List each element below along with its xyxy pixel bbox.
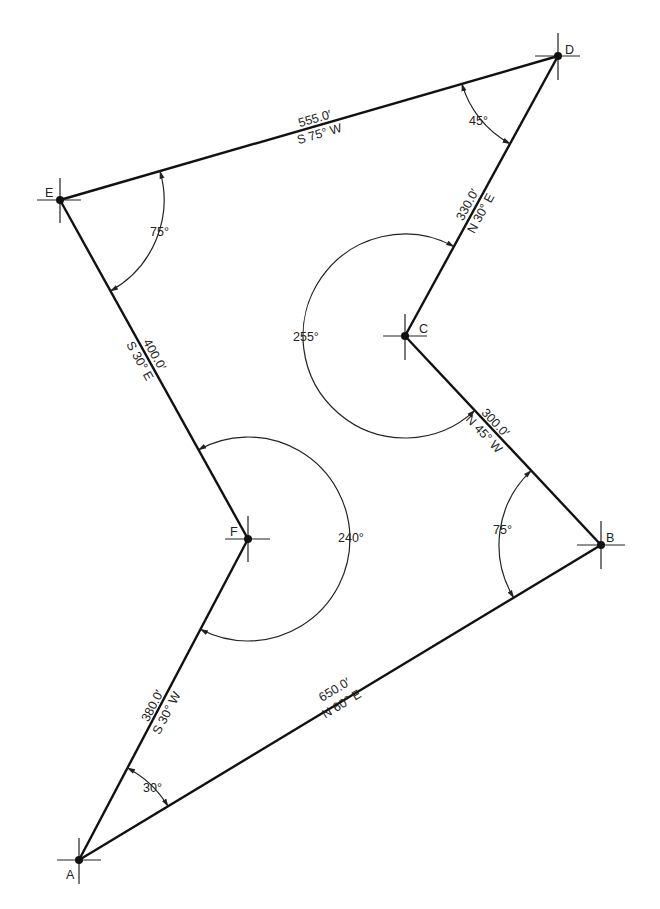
vertex-F [225,516,270,562]
vertex-E [37,178,81,223]
course-E-F [60,200,248,539]
angle-label-B: 75° [493,523,512,537]
vertex-markers [37,33,625,884]
vertex-label-A: A [66,868,75,882]
vertex-label-F: F [230,525,238,539]
angle-label-A: 30° [143,781,162,795]
vertex-label-D: D [565,43,574,57]
vertex-label-C: C [419,322,428,336]
traverse-edges [60,56,601,860]
vertex-label-E: E [45,186,53,200]
vertex-labels: A B C D E F [45,43,614,882]
angle-label-C: 255° [293,330,319,344]
vertex-label-B: B [606,531,614,545]
angle-label-D: 45° [469,114,488,128]
angle-arc-F [199,437,350,641]
course-B-C [405,336,601,545]
course-label-F-A: 380.0′ S 30° W [136,682,184,737]
angle-label-F: 240° [338,531,364,545]
traverse-diagram: A B C D E F 75° 45° 255° 75° 240° 30° 55… [0,0,660,909]
course-D-E [60,56,558,200]
angle-label-E: 75° [150,225,169,239]
vertex-A [57,838,101,884]
